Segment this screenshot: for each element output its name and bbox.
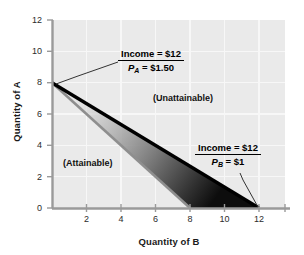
y-tick-2: 2 (24, 172, 42, 182)
y-tick-6: 6 (24, 109, 42, 119)
x-tick-6: 6 (147, 214, 165, 224)
callout-price-a-numerator: Income = $12 (118, 48, 184, 61)
unattainable-label: (Unattainable) (153, 93, 213, 103)
callout-price-b-numerator: Income = $12 (195, 142, 261, 155)
callout-price-b-rest: = $1 (223, 156, 244, 167)
y-tick-8: 8 (24, 77, 42, 87)
callout-price-b-denominator: PB = $1 (195, 155, 261, 170)
y-tick-4: 4 (24, 140, 42, 150)
callout-price-b: Income = $12 PB = $1 (195, 142, 261, 170)
x-axis-title: Quantity of B (52, 236, 286, 247)
callout-price-a-rest: = $1.50 (139, 62, 174, 73)
x-tick-4: 4 (112, 214, 130, 224)
x-tick-10: 10 (216, 214, 234, 224)
x-tick-12: 12 (250, 214, 268, 224)
y-tick-10: 10 (24, 46, 42, 56)
attainable-label: (Attainable) (63, 158, 113, 168)
callout-price-a: Income = $12 PA = $1.50 (118, 48, 184, 76)
y-tick-12: 12 (24, 15, 42, 25)
y-tick-0: 0 (24, 203, 42, 213)
callout-price-a-denominator: PA = $1.50 (118, 61, 184, 76)
x-tick-2: 2 (78, 214, 96, 224)
budget-line-figure: 12 10 8 6 4 2 0 2 4 6 8 10 12 Quantity o… (0, 0, 304, 255)
y-axis-title: Quantity of A (11, 72, 22, 152)
x-tick-8: 8 (181, 214, 199, 224)
